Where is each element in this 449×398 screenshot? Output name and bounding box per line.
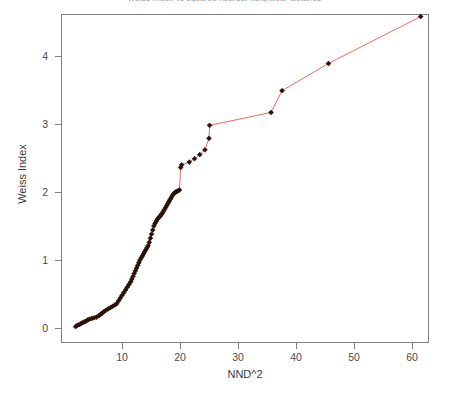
y-tick-mark [55, 328, 61, 329]
y-tick-mark [55, 124, 61, 125]
x-tick-label-30: 30 [232, 351, 244, 363]
y-tick-mark [55, 260, 61, 261]
plot-area [61, 14, 429, 343]
x-tick-mark [354, 343, 355, 349]
y-tick-label-1: 1 [30, 254, 48, 266]
y-tick-label-0: 0 [30, 322, 48, 334]
x-tick-label-60: 60 [406, 351, 418, 363]
chart-title: Weiss Index vs squared nearest-neighbour… [0, 0, 449, 2]
y-tick-mark [55, 56, 61, 57]
x-tick-mark [296, 343, 297, 349]
x-tick-label-40: 40 [290, 351, 302, 363]
x-axis-title: NND^2 [61, 368, 429, 380]
y-tick-label-2: 2 [30, 186, 48, 198]
x-tick-mark [238, 343, 239, 349]
x-tick-label-10: 10 [116, 351, 128, 363]
x-tick-label-50: 50 [348, 351, 360, 363]
y-axis-title: Weiss Index [16, 119, 28, 229]
y-tick-label-3: 3 [30, 118, 48, 130]
chart-figure: Weiss Index vs squared nearest-neighbour… [0, 0, 449, 398]
y-tick-label-4: 4 [30, 50, 48, 62]
y-tick-mark [55, 192, 61, 193]
x-tick-label-20: 20 [174, 351, 186, 363]
x-tick-mark [180, 343, 181, 349]
x-tick-mark [122, 343, 123, 349]
x-tick-mark [412, 343, 413, 349]
